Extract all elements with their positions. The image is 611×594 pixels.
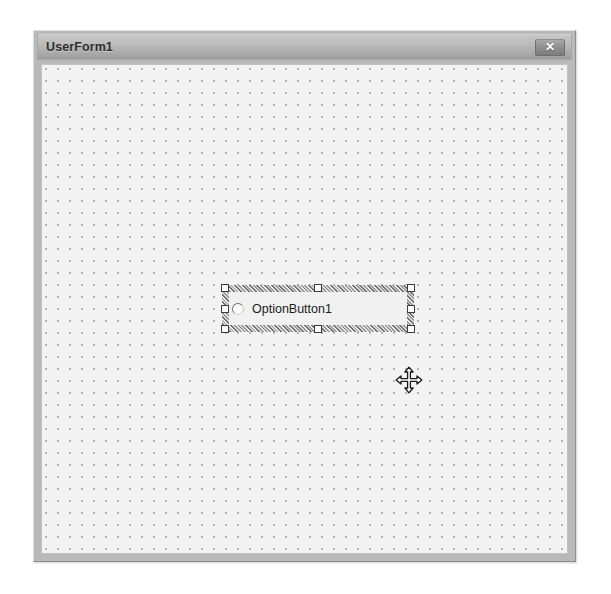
resize-handle-top-right[interactable] [407,284,415,292]
close-button[interactable]: ✕ [535,39,565,56]
radio-button-icon[interactable] [232,303,244,315]
optionbutton-face[interactable]: OptionButton1 [229,292,407,325]
resize-handle-top-center[interactable] [314,284,322,292]
window-title: UserForm1 [38,40,535,54]
resize-handle-bottom-left[interactable] [221,325,229,333]
resize-handle-middle-right[interactable] [407,305,415,313]
resize-handle-bottom-right[interactable] [407,325,415,333]
userform-window[interactable]: UserForm1 ✕ OptionButton1 [33,30,576,562]
window-titlebar[interactable]: UserForm1 ✕ [37,34,572,60]
userform-design-surface[interactable]: OptionButton1 [41,64,568,554]
close-icon: ✕ [545,41,555,53]
optionbutton-control[interactable]: OptionButton1 [222,285,414,332]
resize-handle-top-left[interactable] [221,284,229,292]
resize-handle-middle-left[interactable] [221,305,229,313]
optionbutton-label: OptionButton1 [252,302,332,316]
resize-handle-bottom-center[interactable] [314,325,322,333]
